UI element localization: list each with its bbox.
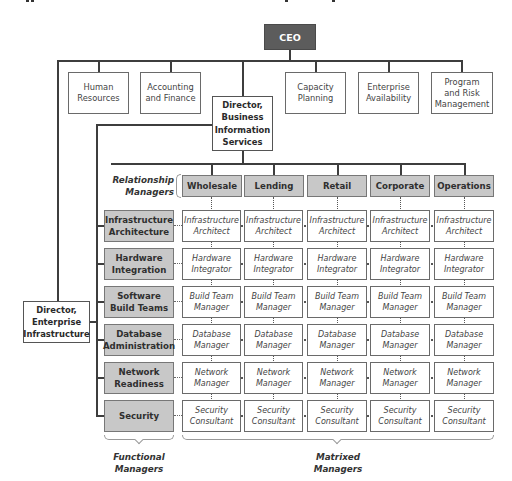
line: Integrator: [317, 264, 357, 275]
line: Readiness: [114, 378, 164, 390]
line: Manager: [319, 378, 354, 389]
drop-wholesale: [211, 163, 213, 175]
line: Architecture: [109, 226, 169, 238]
line: Manager: [382, 340, 417, 351]
cell-connector: [241, 225, 243, 227]
bis-left-arm: [96, 124, 212, 126]
line: Accounting: [147, 82, 193, 93]
line: Network: [320, 367, 353, 378]
matrix-cell: HardwareIntegrator: [307, 248, 367, 280]
line: Resources: [77, 93, 119, 104]
line: Integrator: [191, 264, 231, 275]
matrix-cell: Build TeamManager: [307, 286, 367, 318]
line: Consultant: [252, 416, 295, 427]
functional-managers-label: Functional Managers: [104, 451, 174, 475]
line: Infrastructure: [184, 215, 239, 226]
matrix-cell: SecurityConsultant: [370, 400, 430, 432]
line: Consultant: [442, 416, 485, 427]
line: Network: [383, 367, 416, 378]
line: Relationship: [100, 174, 174, 186]
cell-connector: [367, 225, 369, 227]
spine-arm: [96, 301, 104, 303]
line: Hardware: [115, 252, 162, 264]
line: Consultant: [190, 416, 233, 427]
line: Database: [381, 329, 419, 340]
accounting-finance-box: Accounting and Finance: [140, 72, 201, 114]
line: Network: [447, 367, 480, 378]
line: Manager: [382, 378, 417, 389]
line: Capacity: [297, 82, 333, 93]
line: Business: [222, 111, 264, 123]
dotted-row: [174, 301, 182, 302]
matrix-cell: DatabaseManager: [244, 324, 303, 356]
drop-lending: [273, 163, 275, 175]
matrix-cell: Build TeamManager: [434, 286, 494, 318]
line: Manager: [256, 378, 291, 389]
dotted-row: [174, 263, 182, 264]
line: Database: [192, 329, 230, 340]
line: Director,: [36, 304, 76, 316]
line: Security: [257, 405, 290, 416]
matrix-cell: SecurityConsultant: [307, 400, 367, 432]
line: Enterprise: [367, 82, 410, 93]
line: Network: [195, 367, 228, 378]
line: Director,: [222, 99, 262, 111]
line: Security: [119, 411, 159, 422]
line: Hardware: [192, 253, 231, 264]
line: Hardware: [445, 253, 484, 264]
cell-connector: [304, 415, 306, 417]
director-business-information-services-box: Director, Business Information Services: [212, 96, 273, 151]
line: Manager: [382, 302, 417, 313]
line: Infrastructure: [23, 328, 89, 340]
line: Infrastructure: [437, 215, 492, 226]
column-header-lending: Lending: [244, 175, 304, 197]
spine-arm: [96, 263, 104, 265]
clipped-title-fragment: [332, 0, 335, 2]
line: Build Team: [251, 291, 295, 302]
functional-software-build-teams: Software Build Teams: [104, 286, 174, 318]
line: Architect: [255, 226, 291, 237]
dotted-row: [174, 225, 182, 226]
dotted-row: [174, 377, 182, 378]
line: Architect: [382, 226, 418, 237]
clipped-title-fragment: [31, 0, 34, 2]
matrix-cell: InfrastructureArchitect: [307, 210, 367, 242]
functional-spine: [96, 124, 98, 416]
line: Planning: [298, 93, 334, 104]
matrix-cell: SecurityConsultant: [434, 400, 494, 432]
functional-security: Security: [104, 400, 174, 432]
line: Manager: [446, 302, 481, 313]
cell-connector: [304, 339, 306, 341]
cell-connector: [241, 263, 243, 265]
column-header-wholesale: Wholesale: [182, 175, 242, 197]
line: Architect: [193, 226, 229, 237]
line: Integrator: [380, 264, 420, 275]
cell-connector: [304, 377, 306, 379]
matrix-cell: DatabaseManager: [182, 324, 241, 356]
line: Manager: [256, 302, 291, 313]
cell-connector: [241, 301, 243, 303]
dotted-row: [174, 339, 182, 340]
line: Integration: [112, 264, 167, 276]
spine-arm: [96, 377, 104, 379]
drop-operations: [464, 163, 466, 175]
clipped-title-fragment: [285, 0, 288, 2]
line: Integrator: [253, 264, 293, 275]
line: Infrastructure: [246, 215, 301, 226]
director-enterprise-infrastructure-box: Director, Enterprise Infrastructure: [23, 301, 90, 343]
matrix-cell: InfrastructureArchitect: [244, 210, 303, 242]
column-bus: [111, 163, 465, 165]
matrix-cell: InfrastructureArchitect: [182, 210, 241, 242]
cell-connector: [367, 339, 369, 341]
line: Managers: [300, 463, 376, 475]
line: Manager: [194, 340, 229, 351]
cell-connector: [304, 225, 306, 227]
line: Matrixed: [300, 451, 376, 463]
enterprise-availability-box: Enterprise Availability: [358, 72, 419, 114]
line: Database: [116, 328, 162, 340]
line: Manager: [319, 302, 354, 313]
matrixed-managers-label: Matrixed Managers: [300, 451, 376, 475]
line: Integrator: [444, 264, 484, 275]
drop-dir-bis: [242, 60, 244, 97]
line: Information: [215, 124, 271, 136]
